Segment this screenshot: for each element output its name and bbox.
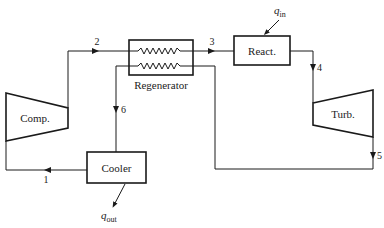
pipe-2 — [68, 51, 129, 108]
cold-coil-icon — [116, 63, 215, 69]
hot-coil-icon — [129, 48, 193, 54]
state-3-label: 3 — [210, 36, 215, 47]
flow-arrow-icon — [208, 48, 215, 54]
stream-4: 4 — [290, 51, 322, 103]
stream-1: 1 — [6, 141, 87, 185]
cooler: Cooler qout — [87, 152, 146, 224]
state-6-label: 6 — [121, 104, 126, 115]
state-1-label: 1 — [44, 174, 49, 185]
turbine: Turb. — [313, 90, 373, 137]
cooler-label: Cooler — [102, 162, 132, 174]
q-in-label: qin — [274, 4, 286, 19]
flow-arrow-icon — [113, 106, 119, 113]
pipe-4 — [290, 51, 313, 103]
state-4-label: 4 — [317, 62, 322, 73]
compressor-label: Comp. — [20, 112, 50, 124]
flow-arrow-icon — [370, 152, 376, 159]
state-2-label: 2 — [95, 36, 100, 47]
regenerator-label: Regenerator — [134, 79, 188, 91]
flow-arrow-icon — [92, 48, 99, 54]
stream-2: 2 — [68, 36, 129, 108]
turbine-label: Turb. — [331, 108, 355, 120]
reactor-label: React. — [248, 45, 276, 57]
heat-out-arrow-icon — [114, 184, 125, 205]
q-out-label: qout — [101, 209, 118, 224]
state-5-label: 5 — [377, 150, 382, 161]
heat-in-arrow-icon — [266, 20, 279, 33]
reactor: React. qin — [234, 4, 290, 65]
flow-arrow-icon — [44, 167, 51, 173]
stream-3: 3 — [193, 36, 234, 54]
regenerator: Regenerator — [116, 40, 215, 91]
flow-arrow-icon — [310, 64, 316, 71]
pipe-1 — [6, 141, 87, 170]
compressor: Comp. — [6, 93, 68, 141]
cycle-diagram: Comp. 2 Regenerator 3 React. qin 4 Turb. — [0, 0, 384, 228]
regenerator-box — [129, 40, 193, 75]
